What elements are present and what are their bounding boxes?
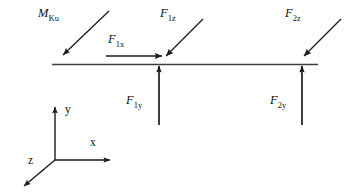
- moment-label-subscript: Ku: [48, 13, 59, 23]
- moment-label: MKu: [38, 4, 59, 23]
- axis-y-label: y: [65, 104, 71, 116]
- force-1z-label-base: F: [160, 6, 168, 20]
- moment-arrow: [63, 11, 109, 55]
- force-2y-label-base: F: [270, 93, 278, 107]
- figure-canvas: MKu F1x F1z F2z F1y F2y y x z: [0, 0, 359, 194]
- force-2z-label-subscript: 2z: [293, 13, 301, 23]
- beam-diagram-svg: [0, 0, 359, 194]
- axis-x-label: x: [90, 137, 96, 149]
- force-1x-label-base: F: [108, 32, 116, 46]
- force-2z-arrow: [304, 19, 341, 56]
- force-1z-arrow: [166, 19, 203, 56]
- force-2z-label-base: F: [285, 6, 293, 20]
- force-1z-label-subscript: 1z: [168, 13, 176, 23]
- force-1x-label: F1x: [108, 30, 124, 49]
- force-1z-label: F1z: [160, 4, 176, 23]
- force-1x-label-subscript: 1x: [116, 39, 125, 49]
- force-1y-label-base: F: [126, 93, 134, 107]
- moment-label-base: M: [38, 6, 48, 20]
- force-2z-label: F2z: [285, 4, 301, 23]
- axis-z-label: z: [28, 155, 33, 167]
- coordinate-axes: [24, 107, 110, 186]
- force-1y-label: F1y: [126, 91, 142, 110]
- force-2y-label-subscript: 2y: [278, 100, 287, 110]
- force-1y-label-subscript: 1y: [134, 100, 143, 110]
- force-2y-label: F2y: [270, 91, 286, 110]
